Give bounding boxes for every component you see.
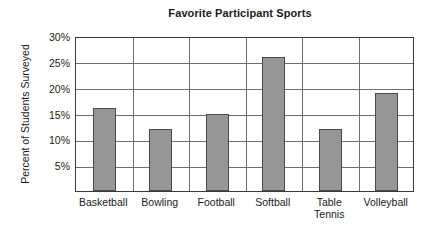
bar (206, 114, 229, 192)
y-axis-tick-label: 10% (28, 135, 70, 145)
x-axis-tick-label: Table Tennis (301, 196, 358, 220)
bar (375, 93, 398, 191)
gridline-horizontal (76, 141, 413, 142)
x-axis-tick-label: Football (188, 196, 245, 208)
gridline-vertical (133, 38, 134, 191)
gridline-horizontal (76, 89, 413, 90)
x-axis-tick-label: Basketball (75, 196, 132, 208)
bar (262, 57, 285, 191)
x-axis-tick-label: Softball (245, 196, 302, 208)
y-axis-tick-label: 20% (28, 84, 70, 94)
gridline-horizontal (76, 115, 413, 116)
y-axis-tick-label: 25% (28, 58, 70, 68)
bar (149, 129, 172, 191)
y-axis-tick-label: 5% (28, 161, 70, 171)
gridline-vertical (246, 38, 247, 191)
gridline-horizontal (76, 63, 413, 64)
y-axis-tick-labels: 5%10%15%20%25%30% (28, 0, 70, 235)
gridline-horizontal (76, 167, 413, 168)
bar-chart: Favorite Participant Sports Percent of S… (0, 0, 437, 235)
chart-title: Favorite Participant Sports (60, 7, 420, 19)
gridline-vertical (302, 38, 303, 191)
x-axis-tick-label: Bowling (132, 196, 189, 208)
y-axis-tick-label: 15% (28, 110, 70, 120)
x-axis-tick-label: Volleyball (358, 196, 415, 208)
y-axis-tick-label: 30% (28, 32, 70, 42)
bar (93, 108, 116, 191)
gridline-vertical (189, 38, 190, 191)
plot-area (75, 37, 414, 192)
gridline-vertical (359, 38, 360, 191)
bar (319, 129, 342, 191)
